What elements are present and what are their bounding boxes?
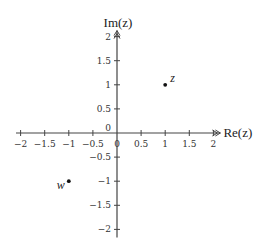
real-axis-tick-label: 0 <box>114 139 120 149</box>
point-z-label: z <box>169 71 175 85</box>
imaginary-axis-tick-label: 0 <box>105 123 111 133</box>
imaginary-axis-tick-label: −0.5 <box>89 152 111 162</box>
imaginary-axis-tick-label: 0.5 <box>97 104 112 114</box>
imaginary-axis-tick-label: −1.5 <box>89 200 111 210</box>
real-axis-tick-label: 0.5 <box>134 139 149 149</box>
real-axis-tick-label: 1 <box>162 139 168 149</box>
real-axis-tick-label: −1.5 <box>34 139 56 149</box>
point-w-label: w <box>57 178 65 192</box>
imaginary-axis-tick-label: −1 <box>98 176 111 186</box>
real-axis-tick-label: −1 <box>62 139 75 149</box>
complex-plane-diagram: −2−1.5−1−0.500.511.52 −2−1.5−1−0.500.511… <box>0 0 261 249</box>
real-axis-tick-label: 1.5 <box>182 139 197 149</box>
imaginary-axis-tick-label: 2 <box>105 32 111 42</box>
imaginary-axis-tick-label: 1 <box>105 80 111 90</box>
real-axis-title: Re(z) <box>223 125 252 140</box>
point-z-marker <box>163 83 167 87</box>
points: zw <box>57 71 175 192</box>
real-axis-tick-label: 2 <box>211 139 217 149</box>
point-w-marker <box>67 179 71 183</box>
imaginary-axis-title: Im(z) <box>104 15 133 30</box>
imaginary-axis-tick-label: 1.5 <box>97 56 112 66</box>
real-axis-tick-label: −0.5 <box>82 139 104 149</box>
imaginary-axis-tick-label: −2 <box>98 224 111 234</box>
real-axis-tick-label: −2 <box>14 139 27 149</box>
